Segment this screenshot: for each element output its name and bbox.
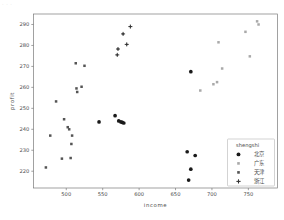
data-point: [249, 55, 252, 58]
y-tick-label: 250: [19, 105, 29, 111]
data-point: [221, 67, 224, 70]
data-point: [71, 134, 74, 137]
data-point: [97, 120, 101, 124]
legend-item-label: 北京: [254, 150, 265, 158]
data-point: [113, 114, 117, 118]
x-tick-label: 500: [61, 191, 71, 197]
data-point: [83, 65, 86, 68]
legend-marker-icon: [237, 162, 240, 165]
series-3: [115, 25, 132, 57]
y-tick-label: 220: [19, 168, 29, 174]
data-point: [74, 62, 77, 65]
legend-marker-icon: [237, 171, 240, 174]
data-point: [187, 178, 191, 182]
legend-title: shengshi: [236, 142, 259, 149]
y-axis-ticks: 220230240250260270280290: [19, 21, 33, 174]
data-point: [125, 42, 129, 46]
x-tick-label: 600: [134, 191, 144, 197]
data-point: [63, 118, 66, 121]
data-point: [189, 167, 193, 171]
y-tick-label: 230: [19, 147, 29, 153]
data-point: [68, 128, 71, 131]
y-tick-label: 240: [19, 126, 29, 132]
y-tick-label: 270: [19, 63, 29, 69]
data-point: [80, 85, 83, 88]
legend[interactable]: shengshi北京广东天津浙江: [228, 139, 275, 186]
series-2: [45, 62, 86, 169]
series-1: [199, 20, 260, 92]
data-point: [121, 32, 125, 36]
data-point: [55, 100, 58, 103]
data-point: [115, 53, 119, 57]
legend-marker-icon: [237, 152, 241, 156]
x-tick-label: 750: [243, 191, 253, 197]
data-point: [185, 150, 189, 154]
data-point: [49, 134, 52, 137]
data-point: [75, 87, 78, 90]
data-point: [116, 47, 120, 51]
data-point: [45, 166, 48, 169]
data-point: [257, 23, 260, 26]
x-tick-label: 700: [207, 191, 217, 197]
scatter-plot: 500550600650700750 220230240250260270280…: [0, 0, 284, 220]
x-tick-label: 550: [98, 191, 108, 197]
data-point: [122, 121, 126, 125]
x-axis-title: income: [144, 202, 167, 208]
legend-item-label: 广东: [254, 159, 265, 167]
data-point: [61, 157, 64, 160]
data-point: [212, 83, 215, 86]
data-point: [128, 25, 132, 29]
data-point: [193, 154, 197, 158]
data-point: [76, 91, 79, 94]
data-point: [70, 143, 73, 146]
data-point: [256, 20, 258, 23]
data-point: [199, 89, 202, 92]
y-tick-label: 290: [19, 21, 29, 27]
data-point: [216, 81, 219, 84]
data-point: [217, 41, 220, 44]
data-point: [189, 70, 193, 74]
x-axis-ticks: 500550600650700750: [61, 188, 253, 197]
data-point: [244, 31, 247, 33]
series-0: [97, 70, 197, 182]
x-tick-label: 650: [171, 191, 181, 197]
y-axis-title: profit: [9, 92, 16, 110]
legend-item-label: 天津: [254, 169, 265, 176]
y-tick-label: 260: [19, 84, 29, 90]
legend-item-label: 浙江: [254, 177, 265, 185]
chart-figure: · · · 500550600650700750 220230240250260…: [0, 0, 284, 220]
y-tick-label: 280: [19, 42, 29, 48]
data-point: [69, 157, 72, 160]
axis-titles: incomeprofit: [9, 92, 167, 207]
